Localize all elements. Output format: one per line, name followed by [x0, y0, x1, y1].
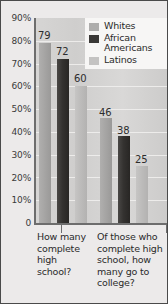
legend-item-african-americans: African Americans: [89, 33, 165, 54]
legend-label-african-americans: African Americans: [104, 33, 165, 54]
bar-group2-whites: [100, 118, 112, 223]
legend-label-whites: Whites: [104, 21, 135, 32]
legend: Whites African Americans Latinos: [85, 18, 167, 69]
y-tick-50: 50%: [12, 104, 31, 114]
y-tick-0: 0: [25, 218, 31, 228]
y-tick-90: 90%: [12, 13, 31, 23]
bar-value-group1-latinos: 60: [74, 73, 86, 84]
x-axis-category-labels: How many complete high school? Of those …: [34, 231, 168, 303]
bar-value-group2-whites: 46: [99, 107, 111, 118]
bar-value-group2-latinos: 25: [135, 154, 147, 165]
y-tick-30: 30%: [12, 150, 31, 160]
y-tick-40: 40%: [12, 127, 31, 137]
legend-swatch-latinos-icon: [89, 57, 99, 65]
legend-item-latinos: Latinos: [89, 55, 165, 66]
bar-value-group1-african-americans: 72: [56, 46, 68, 57]
bar-group2-latinos: [136, 166, 148, 223]
bar-value-group1-whites: 79: [38, 30, 50, 41]
y-tick-60: 60%: [12, 81, 31, 91]
legend-swatch-african-americans-icon: [89, 35, 99, 43]
bar-group1-whites: [39, 43, 51, 223]
legend-swatch-whites-icon: [89, 23, 99, 31]
bar-value-group2-african-americans: 38: [117, 125, 129, 136]
bar-chart-figure: 90% 80% 70% 60% 50% 40% 30% 20% 10% 0 79…: [0, 0, 168, 304]
category-label-2: Of those who complete high school, how m…: [94, 231, 168, 303]
legend-item-whites: Whites: [89, 21, 165, 32]
category-label-1: How many complete high school?: [34, 231, 94, 303]
bar-group2-african-americans: [118, 136, 130, 223]
legend-label-latinos: Latinos: [104, 55, 137, 66]
y-tick-20: 20%: [12, 173, 31, 183]
y-tick-10: 10%: [12, 195, 31, 205]
y-axis: 90% 80% 70% 60% 50% 40% 30% 20% 10% 0: [1, 1, 34, 229]
y-tick-70: 70%: [12, 59, 31, 69]
bar-group1-african-americans: [57, 59, 69, 223]
bar-group1-latinos: [75, 86, 87, 223]
y-tick-80: 80%: [12, 36, 31, 46]
gridline-60: [36, 86, 168, 87]
